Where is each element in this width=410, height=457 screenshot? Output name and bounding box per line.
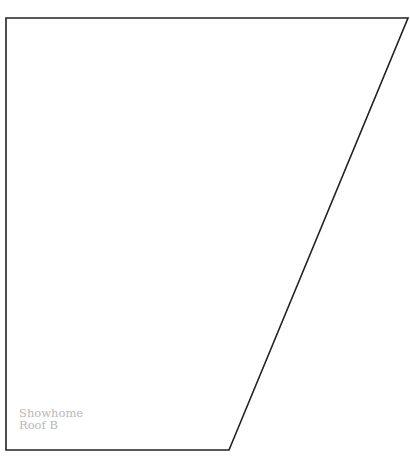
roof-label-line2: Roof B	[19, 419, 83, 431]
roof-outline-shape	[6, 18, 408, 450]
roof-outline-diagram	[0, 0, 410, 457]
roof-label: Showhome Roof B	[19, 407, 83, 431]
